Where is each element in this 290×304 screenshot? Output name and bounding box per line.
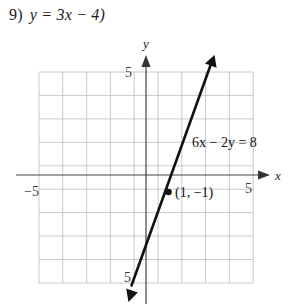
x-tick-label-positive: 5 (245, 181, 252, 196)
coordinate-graph: y x 5 −5 5 5 (1, −1) 6x − 2y = 8 (0, 32, 290, 304)
line-arrowhead-down (126, 289, 138, 303)
y-tick-label-negative: 5 (124, 270, 131, 285)
problem-equation: y = 3x − 4) (30, 6, 105, 23)
x-axis-arrowhead (258, 171, 270, 180)
x-tick-label-negative: −5 (24, 184, 39, 199)
problem-number: 9) (9, 6, 23, 23)
y-tick-label-positive: 5 (125, 65, 132, 80)
point-label: (1, −1) (175, 185, 214, 201)
worksheet-problem-page: 9)y = 3x − 4) (0, 0, 290, 304)
y-axis-label: y (141, 36, 149, 51)
problem-statement: 9)y = 3x − 4) (9, 4, 105, 26)
line-equation-label: 6x − 2y = 8 (192, 135, 257, 150)
x-axis-label: x (274, 168, 281, 183)
y-axis-arrowhead (142, 55, 151, 67)
plotted-line (126, 55, 216, 302)
plotted-point (165, 189, 172, 196)
